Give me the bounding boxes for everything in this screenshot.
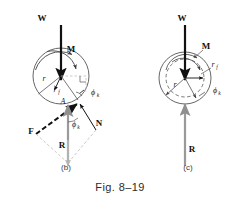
panel-label-b: (b) — [61, 163, 71, 172]
label-friction-angle-sub-b: k — [97, 92, 100, 98]
label-resultant-c: R — [189, 144, 196, 154]
label-friction-angle-c: ϕ — [213, 86, 217, 95]
label-moment-b: M — [67, 44, 76, 54]
panel-c-group: W M r r f ϕ k R (c) — [159, 13, 221, 172]
label-angle-at-resultant-sub-b: k — [77, 124, 80, 130]
normal-force-vector-b — [80, 104, 96, 130]
label-friction-angle-sub-c: k — [218, 90, 221, 96]
label-friction-force-b: F — [28, 126, 34, 136]
label-friction-radius-b: r — [53, 85, 57, 94]
figure-8-19: W M r r f A ϕ k F N R ϕ k (b) — [0, 0, 241, 202]
label-weight-c: W — [178, 13, 187, 23]
label-friction-radius-sub-c: f — [216, 64, 219, 70]
label-radius-c: r — [173, 80, 177, 89]
panel-label-c: (c) — [183, 163, 193, 172]
label-normal-force-b: N — [96, 118, 103, 128]
panel-b-group: W M r r f A ϕ k F N R ϕ k (b) — [28, 13, 103, 172]
label-resultant-b: R — [59, 140, 66, 150]
label-radius-b: r — [42, 74, 46, 83]
radius-line-right-c — [185, 78, 196, 98]
figure-caption: Fig. 8–19 — [95, 181, 144, 193]
right-angle-construction-b — [61, 76, 86, 92]
figure-canvas: W M r r f A ϕ k F N R ϕ k (b) — [0, 0, 241, 202]
label-contact-point-b: A — [60, 97, 66, 106]
label-angle-at-resultant-b: ϕ — [72, 120, 76, 129]
friction-force-vector-b — [36, 104, 77, 134]
label-friction-radius-sub-b: f — [58, 89, 61, 95]
label-friction-angle-b: ϕ — [91, 88, 95, 97]
label-moment-c: M — [202, 41, 211, 51]
right-angle-marker-b — [80, 76, 86, 82]
label-friction-radius-c: r — [211, 60, 215, 69]
parallelogram-side-right-b — [68, 130, 96, 163]
moment-arc-arrow-b — [36, 52, 73, 70]
label-weight-b: W — [38, 13, 47, 23]
